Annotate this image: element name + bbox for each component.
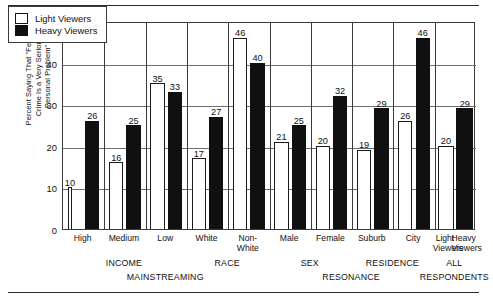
bar-value-label: 32 (329, 86, 351, 96)
bar-heavy-city (416, 38, 430, 229)
legend-label-light: Light Viewers (35, 13, 91, 24)
bar-value-label: 29 (452, 99, 477, 109)
bar-heavy-high (85, 121, 99, 229)
bar-value-label: 33 (164, 82, 186, 92)
bar-value-label: 16 (105, 153, 127, 163)
x-tick-label: Low (145, 233, 186, 243)
bar-light-high (68, 187, 72, 229)
category-separator (104, 23, 105, 229)
x-tick-label: Medium (103, 233, 144, 243)
supergroup-label-resonance: RESONANCE (269, 272, 434, 282)
group-label-all: ALL (434, 258, 475, 268)
bar-light-medium (109, 162, 123, 229)
y-tick-label: 30 (29, 100, 57, 111)
x-tick-label: Male (269, 233, 310, 243)
bar-value-label: 40 (246, 53, 268, 63)
bar-value-label: 20 (312, 136, 334, 146)
legend-item-light: Light Viewers (15, 13, 97, 24)
bar-value-label: 46 (412, 28, 434, 38)
y-tick-label: 10 (29, 183, 57, 194)
x-axis-group-labels: INCOMERACESEXRESIDENCEALL (62, 258, 475, 272)
bottom-divider-rule (8, 292, 479, 293)
bar-value-label: 46 (229, 28, 251, 38)
bar-value-label: 10 (64, 178, 76, 188)
group-label-residence: RESIDENCE (351, 258, 434, 268)
category-separator (435, 23, 436, 229)
category-separator (146, 23, 147, 229)
bar-light-low (150, 83, 164, 229)
plot-area: 01020304050 1026162535331727464021252032… (62, 22, 475, 230)
bar-light-male (274, 142, 288, 229)
category-separator (187, 23, 188, 229)
legend-label-heavy: Heavy Viewers (35, 25, 97, 36)
bar-heavy-low (168, 92, 182, 229)
x-tick-label: White (186, 233, 227, 243)
category-separator (311, 23, 312, 229)
x-axis-supergroup-labels: MAINSTREAMINGRESONANCERESPONDENTS (62, 272, 475, 286)
bar-value-label: 17 (188, 149, 210, 159)
x-tick-label: Heavy Viewers (451, 233, 476, 253)
bar-light-city (398, 121, 412, 229)
x-tick-label: Suburb (351, 233, 392, 243)
category-separator (393, 23, 394, 229)
group-label-income: INCOME (62, 258, 186, 268)
bar-heavy-suburb (374, 108, 388, 229)
x-axis-labels: HighMediumLowWhiteNon- WhiteMaleFemaleSu… (62, 233, 475, 257)
group-label-sex: SEX (269, 258, 352, 268)
bar-light-non-white (233, 38, 247, 229)
y-tick-label: 0 (29, 225, 57, 236)
x-tick-label: City (392, 233, 433, 243)
y-tick-label: 40 (29, 58, 57, 69)
x-tick-label: Female (310, 233, 351, 243)
category-separator (228, 23, 229, 229)
bar-light-female (316, 146, 330, 229)
bar-light-all-respondents (438, 146, 455, 229)
bar-light-white (192, 158, 206, 229)
supergroup-label-mainstreaming: MAINSTREAMING (62, 272, 269, 282)
bar-heavy-female (333, 96, 347, 229)
bar-heavy-all-respondents (456, 108, 473, 229)
legend-swatch-heavy-icon (15, 25, 28, 36)
legend-item-heavy: Heavy Viewers (15, 25, 97, 36)
bar-value-label: 19 (353, 140, 375, 150)
category-separator (270, 23, 271, 229)
bar-value-label: 26 (394, 111, 416, 121)
bar-heavy-medium (126, 125, 140, 229)
bar-value-label: 20 (434, 136, 459, 146)
legend-swatch-light-icon (15, 13, 28, 24)
bar-series: 1026162535331727464021252032192926462029 (63, 23, 474, 229)
bar-value-label: 26 (81, 111, 103, 121)
chart-legend: Light Viewers Heavy Viewers (8, 6, 107, 43)
bar-value-label: 25 (122, 116, 144, 126)
bar-value-label: 21 (270, 132, 292, 142)
bar-heavy-non-white (250, 63, 264, 229)
bar-value-label: 27 (205, 107, 227, 117)
bar-value-label: 25 (288, 116, 310, 126)
bar-value-label: 29 (370, 99, 392, 109)
x-tick-label: High (62, 233, 103, 243)
bar-heavy-white (209, 117, 223, 229)
bar-heavy-male (292, 125, 306, 229)
supergroup-label-respondents: RESPONDENTS (416, 272, 493, 282)
category-separator (352, 23, 353, 229)
y-tick-label: 20 (29, 141, 57, 152)
group-label-race: RACE (186, 258, 269, 268)
x-tick-label: Non- White (227, 233, 268, 253)
bar-light-suburb (357, 150, 371, 229)
